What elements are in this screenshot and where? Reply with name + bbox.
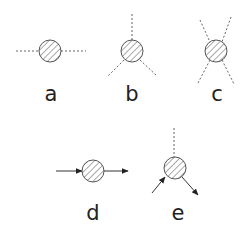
label-c: c: [211, 82, 223, 106]
label-e: e: [172, 201, 185, 225]
hatched-blob: [82, 160, 104, 182]
label-d: d: [86, 201, 99, 225]
incoming-arrow: [152, 177, 165, 193]
hatched-blob: [39, 40, 61, 62]
panel-b: b: [108, 14, 157, 106]
panel-d: d: [56, 160, 128, 225]
outgoing-arrow: [182, 177, 198, 195]
dashed-line-lower-right: [222, 60, 234, 84]
hatched-blob: [121, 40, 143, 62]
panel-a: a: [16, 40, 86, 106]
label-b: b: [125, 82, 138, 106]
panel-e: e: [152, 128, 198, 225]
dashed-line-lower-left: [198, 60, 210, 83]
dashed-line-upper-right: [222, 17, 231, 42]
dashed-line-upper-left: [200, 20, 210, 42]
hatched-blob: [164, 157, 186, 179]
diagram-canvas: a b c d e: [0, 0, 247, 231]
dashed-line-lower-right: [140, 60, 157, 76]
hatched-blob: [205, 40, 227, 62]
panel-c: c: [198, 17, 234, 106]
label-a: a: [45, 82, 58, 106]
dashed-line-lower-left: [108, 60, 124, 76]
